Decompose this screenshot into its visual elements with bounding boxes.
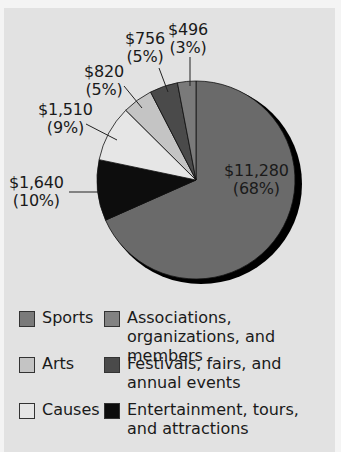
slice-pct: (3%) <box>168 39 208 57</box>
slice-value: $496 <box>168 21 208 39</box>
slice-label-festivals: $756 (5%) <box>125 30 165 66</box>
slice-pct: (10%) <box>9 192 64 210</box>
slice-value: $1,640 <box>9 174 64 192</box>
legend-label: Causes <box>42 400 100 419</box>
legend-item-arts: Arts <box>19 354 74 373</box>
legend-swatch <box>19 403 35 419</box>
legend-label: Festivals, fairs, and annual events <box>127 354 314 392</box>
slice-pct: (5%) <box>125 48 165 66</box>
slice-label-entertainment: $1,640 (10%) <box>9 174 64 210</box>
legend-swatch <box>19 357 35 373</box>
legend-item-festivals: Festivals, fairs, and annual events <box>104 354 314 392</box>
slice-value: $820 <box>84 63 124 81</box>
legend-label: Sports <box>42 308 93 327</box>
slice-label-causes: $1,510 (9%) <box>38 101 93 137</box>
legend-label: Arts <box>42 354 74 373</box>
slice-pct: (9%) <box>38 119 93 137</box>
legend-swatch <box>104 403 120 419</box>
legend-label: Entertainment, tours, and attractions <box>127 400 304 438</box>
legend-swatch <box>104 357 120 373</box>
slice-label-associations: $11,280 (68%) <box>224 162 289 198</box>
legend-item-entertainment: Entertainment, tours, and attractions <box>104 400 304 438</box>
legend-item-causes: Causes <box>19 400 100 419</box>
slice-label-arts: $820 (5%) <box>84 63 124 99</box>
slice-value: $1,510 <box>38 101 93 119</box>
legend-swatch <box>104 311 120 327</box>
slice-pct: (5%) <box>84 81 124 99</box>
slice-value: $756 <box>125 30 165 48</box>
legend-swatch <box>19 311 35 327</box>
slice-pct: (68%) <box>224 180 289 198</box>
legend-item-sports: Sports <box>19 308 93 327</box>
slice-value: $11,280 <box>224 162 289 180</box>
slice-label-sports: $496 (3%) <box>168 21 208 57</box>
